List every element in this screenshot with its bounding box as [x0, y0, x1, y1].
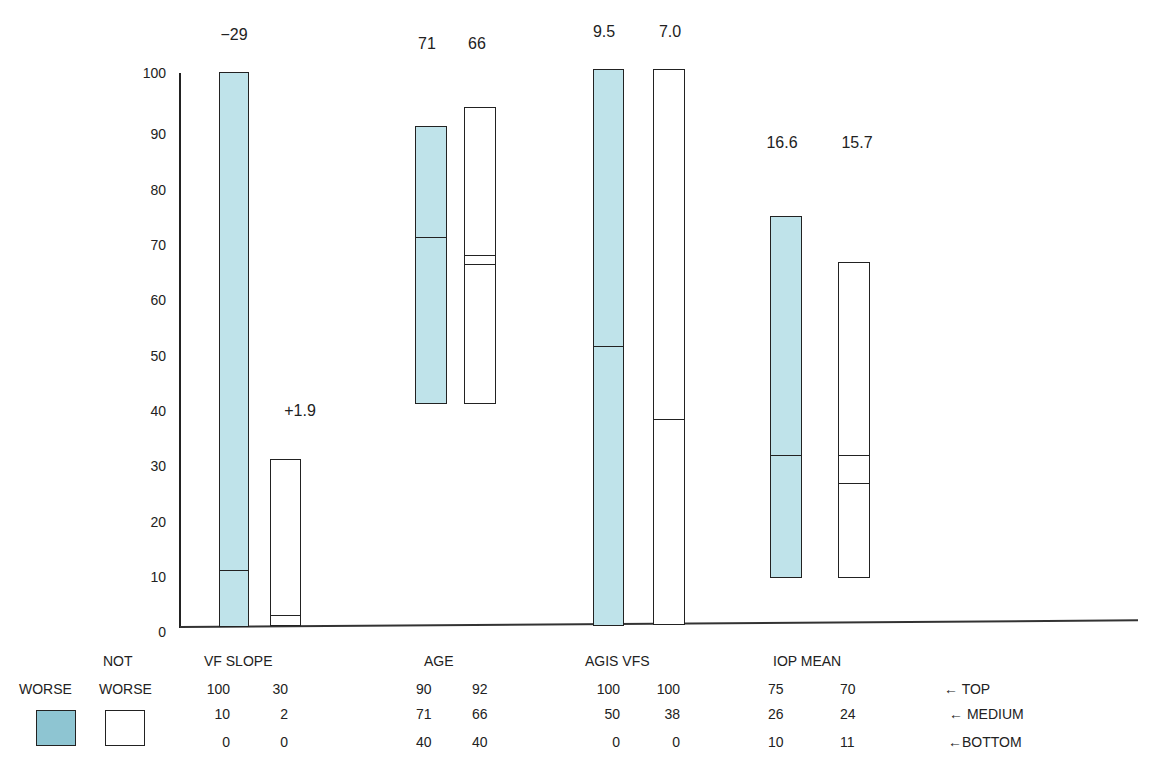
bar-median-line	[465, 264, 495, 265]
legend-not-worse-label: WORSE	[99, 681, 152, 697]
table-cell: 92	[472, 681, 488, 697]
table-cell: 2	[258, 706, 288, 722]
bar-agis-worse	[593, 69, 624, 626]
y-tick-70: 70	[126, 237, 166, 253]
legend-worse-label: WORSE	[19, 681, 72, 697]
table-cell: 40	[472, 734, 488, 750]
table-cell: 26	[768, 706, 784, 722]
row-label-top: ← TOP	[944, 681, 990, 697]
annotation-agis-worse: 9.5	[574, 23, 634, 41]
y-tick-90: 90	[126, 126, 166, 142]
table-cell: 40	[416, 734, 432, 750]
row-label-bottom: ←BOTTOM	[948, 734, 1022, 750]
table-cell: 38	[646, 706, 680, 722]
table-cell: 70	[840, 681, 856, 697]
table-cell: 0	[258, 734, 288, 750]
y-tick-100: 100	[126, 65, 166, 81]
bar-median-line	[220, 570, 248, 571]
y-tick-10: 10	[126, 569, 166, 585]
row-label-medium: ← MEDIUM	[949, 706, 1024, 722]
table-cell: 30	[258, 681, 288, 697]
y-tick-50: 50	[126, 348, 166, 364]
bar-agis-not-worse	[653, 69, 685, 625]
legend-not-label: NOT	[103, 653, 133, 669]
annotation-agis-not: 7.0	[640, 23, 700, 41]
table-cell: 100	[200, 681, 230, 697]
bar-median-line	[771, 455, 801, 456]
bar-median-line	[654, 419, 684, 420]
table-cell: 11	[840, 734, 855, 750]
legend-swatch-worse	[36, 710, 76, 746]
table-cell: 100	[646, 681, 680, 697]
table-header-age: AGE	[424, 653, 454, 669]
bar-vf-slope-worse	[219, 72, 249, 627]
bar-median-line	[839, 483, 869, 484]
annotation-vf-not: +1.9	[270, 402, 330, 420]
table-cell: 75	[768, 681, 784, 697]
bar-median-line	[594, 346, 623, 347]
y-tick-30: 30	[126, 458, 166, 474]
annotation-iop-worse: 16.6	[752, 134, 812, 152]
table-header-agis-vfs: AGIS VFS	[585, 653, 650, 669]
table-cell: 66	[472, 706, 488, 722]
table-cell: 0	[200, 734, 230, 750]
table-header-iop-mean: IOP MEAN	[773, 653, 841, 669]
table-cell: 0	[646, 734, 680, 750]
table-cell: 71	[416, 706, 432, 722]
annotation-age-not: 66	[447, 35, 507, 53]
y-tick-40: 40	[126, 403, 166, 419]
y-tick-0: 0	[126, 624, 166, 640]
bar-age-worse	[415, 126, 447, 404]
y-tick-80: 80	[126, 182, 166, 198]
annotation-vf-worse: −29	[204, 26, 264, 44]
table-cell: 100	[586, 681, 620, 697]
table-header-vf-slope: VF SLOPE	[204, 653, 272, 669]
table-cell: 0	[586, 734, 620, 750]
table-cell: 10	[768, 734, 784, 750]
bar-upper-line	[465, 255, 495, 256]
table-cell: 24	[840, 706, 856, 722]
bar-age-not-worse	[464, 107, 496, 404]
y-tick-20: 20	[126, 514, 166, 530]
bar-median-line	[271, 615, 300, 616]
legend-swatch-not-worse	[105, 710, 145, 746]
bar-iop-not-worse	[838, 262, 870, 578]
bar-upper-line	[839, 455, 869, 456]
y-axis	[179, 73, 181, 628]
bar-vf-slope-not-worse	[270, 459, 301, 626]
table-cell: 10	[200, 706, 230, 722]
table-cell: 90	[416, 681, 432, 697]
table-cell: 50	[586, 706, 620, 722]
annotation-iop-not: 15.7	[827, 134, 887, 152]
bar-iop-worse	[770, 216, 802, 578]
bar-median-line	[416, 237, 446, 238]
y-tick-60: 60	[126, 292, 166, 308]
